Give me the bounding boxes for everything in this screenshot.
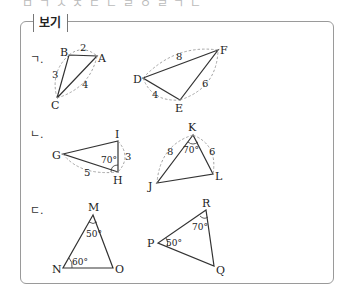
side-ef-length: 6 [202,78,208,89]
vertex-m: M [88,201,99,214]
angle-m-label: 50° [86,229,102,239]
side-kl-length: 6 [209,146,215,157]
vertex-r: R [202,197,211,210]
side-ca-length: 4 [82,79,88,90]
vertex-f: F [220,44,228,57]
vertex-b: B [60,46,68,59]
vertex-e: E [175,102,183,115]
vertex-p: P [147,237,155,250]
triangle-figures: B A C D F E G I H K J L M N O R P Q 2 3 … [0,0,348,296]
angle-p-label: 50° [166,238,182,248]
angle-k-label: 70° [183,145,199,155]
vertex-c: C [51,99,59,112]
vertex-q: Q [216,264,225,277]
side-gh-length: 5 [84,167,90,178]
vertex-o: O [115,263,124,276]
vertex-i: I [115,128,119,141]
side-jk-length: 8 [167,146,173,157]
side-df-length: 8 [176,51,182,62]
side-de-length: 4 [152,89,158,100]
vertex-a: A [97,52,107,65]
vertex-h: H [113,174,123,187]
vertex-n: N [52,263,62,276]
side-ab-length: 2 [80,42,86,53]
vertex-g: G [52,149,61,162]
angle-h-label: 70° [101,155,117,165]
vertex-j: J [147,180,152,193]
angle-r-label: 70° [192,222,208,232]
vertex-d: D [133,73,142,86]
vertex-l: L [215,170,223,183]
vertex-k: K [188,121,197,134]
side-hi-length: 3 [125,151,131,162]
angle-n-label: 60° [72,257,88,267]
triangle-abc [57,55,97,98]
side-bc-length: 3 [52,69,58,80]
